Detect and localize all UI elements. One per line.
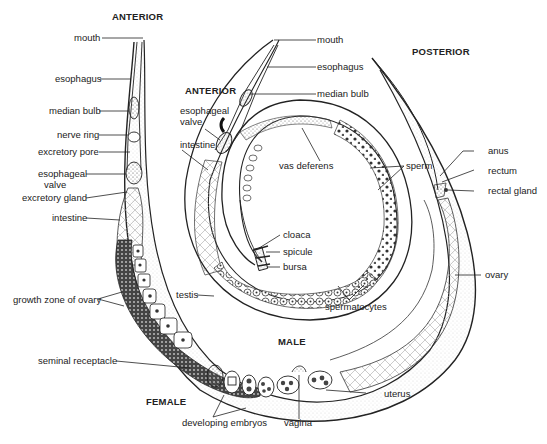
label-uterus: uterus — [384, 389, 410, 399]
heading-male-anterior: ANTERIOR — [185, 85, 236, 96]
label-female-excretory-gland: excretory gland — [22, 193, 87, 203]
label-ovary: ovary — [485, 270, 508, 280]
label-cloaca: cloaca — [283, 230, 310, 240]
label-male-intestine: intestine — [180, 140, 215, 150]
nematode-anatomy-diagram: ANTERIOR ANTERIOR POSTERIOR MALE FEMALE … — [0, 0, 547, 444]
label-testis: testis — [176, 290, 198, 300]
male-tail — [240, 200, 270, 271]
heading-posterior: POSTERIOR — [412, 46, 470, 57]
label-rectum: rectum — [488, 166, 517, 176]
label-spermatocytes: spermatocytes — [325, 302, 387, 312]
label-female-intestine: intestine — [52, 213, 87, 223]
heading-female-anterior: ANTERIOR — [112, 11, 163, 22]
label-female-median-bulb: median bulb — [49, 106, 101, 116]
male-vas-deferens — [240, 116, 332, 140]
label-male-median-bulb: median bulb — [317, 89, 369, 99]
label-female-esophagus: esophagus — [55, 74, 101, 84]
label-anus: anus — [488, 146, 509, 156]
heading-male: MALE — [278, 336, 306, 347]
label-rectal-gland: rectal gland — [488, 186, 537, 196]
label-female-excretory-pore: excretory pore — [38, 147, 99, 157]
label-male-esophageal-valve-line1: esophageal — [180, 106, 229, 116]
label-female-esophageal-valve-line1: esophageal — [38, 169, 87, 179]
vulva — [292, 366, 306, 372]
label-spicule: spicule — [283, 247, 313, 257]
male-sperm-region — [334, 120, 398, 295]
label-vagina: vagina — [284, 418, 312, 428]
label-female-esophageal-valve-line2: valve — [44, 180, 66, 190]
label-growth-zone-of-ovary: growth zone of ovary — [13, 295, 101, 305]
label-female-nerve-ring: nerve ring — [57, 130, 99, 140]
label-male-esophageal-valve-line2: valve — [180, 117, 202, 127]
label-developing-embryos: developing embryos — [182, 418, 267, 428]
label-sperm: sperm — [406, 161, 432, 171]
label-male-esophagus: esophagus — [317, 62, 363, 72]
label-female-mouth: mouth — [74, 33, 100, 43]
label-vas-deferens: vas deferens — [279, 161, 333, 171]
heading-female: FEMALE — [146, 396, 186, 407]
label-male-mouth: mouth — [317, 35, 343, 45]
label-bursa: bursa — [283, 262, 307, 272]
label-seminal-receptacle: seminal receptacle — [38, 356, 117, 366]
